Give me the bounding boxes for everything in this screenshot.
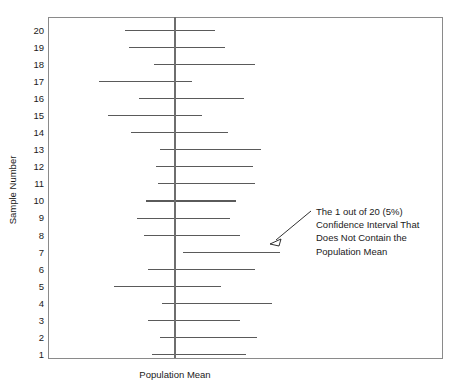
annotation-text-line: The 1 out of 20 (5%) xyxy=(316,206,403,217)
y-axis-tick-label: 4 xyxy=(39,298,44,309)
y-axis-tick-label: 8 xyxy=(39,230,44,241)
annotation-text-line: Does Not Contain the xyxy=(316,232,407,243)
annotation-text-line: Confidence Interval That xyxy=(316,219,420,230)
y-axis-tick-label: 15 xyxy=(33,110,44,121)
y-axis-tick-label: 6 xyxy=(39,264,44,275)
y-axis-tick-label: 1 xyxy=(39,349,44,360)
y-axis-tick-label: 11 xyxy=(34,178,44,189)
y-axis-tick-label: 20 xyxy=(33,25,44,36)
y-axis-tick-label: 18 xyxy=(33,59,44,70)
y-axis-tick-label: 14 xyxy=(33,127,44,138)
x-axis-title: Population Mean xyxy=(139,369,210,380)
y-axis-tick-label: 5 xyxy=(39,281,44,292)
annotation-text-line: Population Mean xyxy=(316,246,387,257)
chart-svg: 2019181716151413121110987654321 Populati… xyxy=(0,0,466,389)
y-axis-title: Sample Number xyxy=(7,156,18,225)
y-axis-tick-label: 3 xyxy=(39,315,44,326)
y-axis-tick-label: 13 xyxy=(33,144,44,155)
y-axis-tick-label: 16 xyxy=(33,93,44,104)
y-axis-tick-label: 7 xyxy=(39,247,44,258)
y-axis-tick-label: 10 xyxy=(33,195,44,206)
y-axis-tick-label: 2 xyxy=(39,332,44,343)
y-axis-tick-label: 9 xyxy=(39,212,44,223)
chart-background xyxy=(0,0,466,389)
y-axis-tick-label: 17 xyxy=(33,76,44,87)
y-axis-tick-label: 12 xyxy=(33,161,44,172)
y-axis-tick-label: 19 xyxy=(33,42,44,53)
confidence-interval-chart: 2019181716151413121110987654321 Populati… xyxy=(0,0,466,389)
